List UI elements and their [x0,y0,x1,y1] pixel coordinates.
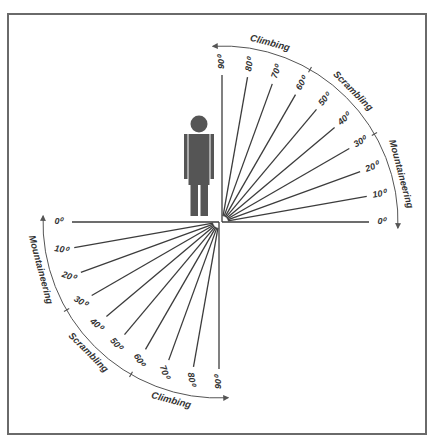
degree-label: 60⁰ [294,74,310,92]
degree-label: 80⁰ [186,372,198,389]
zone-label-scrambling: Scrambling [67,330,111,374]
degree-label: 90⁰ [213,374,223,389]
degree-label: 40⁰ [87,315,106,333]
degree-label: 40⁰ [335,110,354,128]
degree-label: 30⁰ [352,133,370,149]
degree-label: 50⁰ [316,90,333,108]
zone-label-climbing: Climbing [150,389,192,410]
lower-angle-fan: 0⁰10⁰20⁰30⁰40⁰50⁰60⁰70⁰80⁰90⁰Mountaineer… [27,216,228,411]
degree-label: 90⁰ [216,54,226,69]
slope-angle-diagram: 0⁰10⁰20⁰30⁰40⁰50⁰60⁰70⁰80⁰90⁰Mountaineer… [0,0,432,440]
zone-label-climbing: Climbing [249,32,291,53]
degree-label: 70⁰ [269,62,284,80]
zone-label-scrambling: Scrambling [331,68,375,112]
degree-label: 60⁰ [132,352,148,370]
degree-label: 10⁰ [372,187,389,199]
degree-label: 0⁰ [54,216,64,226]
person-icon [184,116,214,217]
zone-label-mountaineering: Mountaineering [27,234,56,305]
degree-label: 80⁰ [243,56,255,73]
upper-angle-fan: 0⁰10⁰20⁰30⁰40⁰50⁰60⁰70⁰80⁰90⁰Mountaineer… [213,32,416,228]
degree-label: 30⁰ [72,294,90,310]
degree-label: 0⁰ [377,216,387,226]
degree-label: 10⁰ [54,243,71,255]
degree-label: 70⁰ [158,364,173,382]
degree-label: 20⁰ [60,269,78,284]
degree-label: 20⁰ [363,159,381,174]
degree-label: 50⁰ [108,336,125,354]
